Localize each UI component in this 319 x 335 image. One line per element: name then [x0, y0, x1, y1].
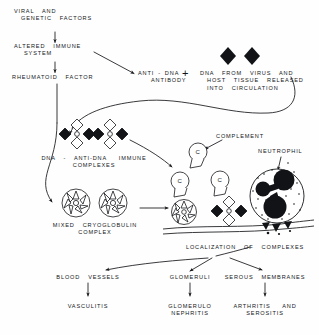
black-diamond-dna-icon	[244, 47, 260, 65]
deposited-immune-complex-with-complement	[211, 171, 247, 226]
arrow-neutrophil-label	[278, 157, 281, 170]
complement-c-glyph: C	[196, 149, 200, 155]
complement-c-glyph: C	[218, 177, 222, 183]
node-blood-vessels: BLOOD VESSELS	[56, 274, 119, 281]
gn-line2: NEPHRITIS	[171, 310, 209, 316]
arthritis-line2: SEROSITIS	[246, 310, 284, 316]
immune-complex-diamond-cluster-icon	[92, 119, 128, 149]
immune-complex-diamond-cluster-icon	[59, 119, 95, 149]
node-arthritis-and-serositis: ARTHRITIS AND SEROSITIS	[233, 303, 296, 318]
node-anti-dna-antibody: ANTI - DNA ANTIBODY	[138, 70, 186, 85]
cryoglobulin-spoked-wheel-icon	[99, 189, 127, 217]
node-neutrophil-label: NEUTROPHIL	[258, 148, 303, 155]
node-serous-membranes: SEROUS MEMBRANES	[225, 274, 305, 281]
immune-complexes-line1: DNA - ANTI-DNA IMMUNE	[41, 155, 146, 161]
node-glomeruli: GLOMERULI	[170, 274, 211, 281]
node-dna-released-into-circulation: DNA FROM VIRUS AND HOST TISSUE RELEASED …	[200, 70, 304, 92]
black-diamond-dna-icon	[220, 47, 236, 65]
arrow-localization-to-glomeruli	[190, 258, 212, 271]
cryoglobulin-line2: COMPLEX	[78, 229, 111, 235]
node-mixed-cryoglobulin-complex: MIXED CRYOGLOBULIN COMPLEX	[53, 222, 138, 237]
deposited-cryoglobulin-with-complement	[171, 172, 197, 225]
arthritis-line1: ARTHRITIS AND	[233, 303, 296, 309]
node-viral-genetic-factors: VIRAL AND GENETIC FACTORS	[14, 8, 92, 23]
immune-complex-pathogenesis-diagram: VIRAL AND GENETIC FACTORS ALTERED IMMUNE…	[0, 0, 319, 335]
node-localization-of-complexes: LOCALIZATION OF COMPLEXES	[186, 244, 304, 251]
node-complement-label: COMPLEMENT	[216, 133, 264, 140]
dna-release-line1: DNA FROM VIRUS AND	[200, 70, 293, 76]
arrow-localization-to-blood	[106, 258, 208, 270]
blood-vessels-line1: BLOOD VESSELS	[56, 274, 119, 280]
neutrophil-line1: NEUTROPHIL	[258, 148, 303, 154]
neutrophil-cell-icon	[250, 162, 304, 235]
node-dna-antidna-immune-complexes: DNA - ANTI-DNA IMMUNE COMPLEXES	[41, 155, 146, 170]
cryoglobulin-spoked-wheel-icon	[62, 189, 90, 217]
immune-complexes-line2: COMPLEXES	[73, 162, 115, 168]
arrow-localization-to-serous	[230, 258, 262, 270]
vasculitis-line1: VASCULITIS	[68, 303, 109, 309]
localization-line1: LOCALIZATION OF COMPLEXES	[186, 244, 304, 250]
plus-operator: +	[182, 68, 188, 79]
arrow-complement-label	[205, 140, 222, 149]
altered-immune-line2: SYSTEM	[24, 50, 52, 56]
rheumatoid-factor-line1: RHEUMATOID FACTOR	[12, 74, 93, 80]
viral-genetic-line2: GENETIC FACTORS	[21, 15, 92, 21]
dna-release-line2: HOST TISSUE RELEASED	[207, 77, 304, 83]
dna-release-line3: INTO CIRCULATION	[207, 85, 279, 91]
node-glomerulonephritis: GLOMERULO NEPHRITIS	[168, 303, 211, 318]
complement-line1: COMPLEMENT	[216, 133, 264, 139]
complement-c-blob-icon	[189, 143, 207, 168]
gn-line1: GLOMERULO	[168, 303, 211, 309]
glomeruli-line1: GLOMERULI	[170, 274, 211, 280]
arrow-altered-to-antidna	[94, 52, 134, 74]
anti-dna-line1: ANTI - DNA	[138, 70, 179, 76]
serous-membranes-line1: SEROUS MEMBRANES	[225, 274, 305, 280]
complement-c-glyph: C	[178, 178, 182, 184]
node-altered-immune-system: ALTERED IMMUNE SYSTEM	[14, 43, 81, 58]
node-rheumatoid-factor: RHEUMATOID FACTOR	[12, 74, 93, 81]
altered-immune-line1: ALTERED IMMUNE	[14, 43, 81, 49]
node-vasculitis: VASCULITIS	[68, 303, 109, 310]
cryoglobulin-line1: MIXED CRYOGLOBULIN	[53, 222, 138, 228]
viral-genetic-line1: VIRAL AND	[14, 8, 56, 14]
free-dna-diamonds	[220, 47, 260, 65]
